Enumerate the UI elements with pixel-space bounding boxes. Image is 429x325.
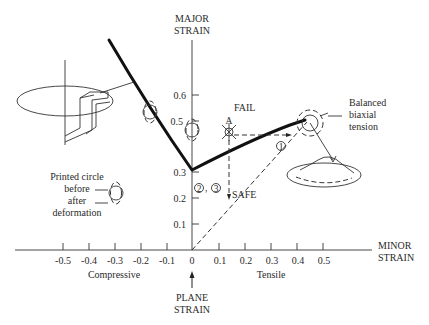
svg-text:0.5: 0.5 bbox=[318, 255, 331, 266]
balanced-label-line2: biaxial bbox=[349, 109, 376, 120]
svg-text:0.3: 0.3 bbox=[174, 167, 187, 178]
plane-strain-label-line1: PLANE bbox=[176, 292, 208, 303]
legend-line4: deformation bbox=[53, 207, 102, 218]
svg-text:-0.3: -0.3 bbox=[107, 255, 123, 266]
path-1-number: 1 bbox=[279, 142, 284, 152]
svg-text:0.5: 0.5 bbox=[171, 116, 184, 127]
svg-text:0.6: 0.6 bbox=[174, 90, 187, 101]
svg-text:0.1: 0.1 bbox=[214, 255, 227, 266]
svg-text:0.3: 0.3 bbox=[266, 255, 279, 266]
fail-label: FAIL bbox=[234, 102, 255, 113]
x-axis-title-line1: MINOR bbox=[378, 240, 412, 251]
y-ticks bbox=[192, 95, 199, 224]
balanced-label-line3: tension bbox=[349, 121, 378, 132]
svg-text:-0.5: -0.5 bbox=[55, 255, 71, 266]
x-axis-title-line2: STRAIN bbox=[378, 252, 414, 263]
legend-line2: before bbox=[64, 183, 90, 194]
path-2-number: 2 bbox=[197, 184, 202, 194]
y-axis-title-line1: MAJOR bbox=[175, 13, 209, 24]
svg-text:0.2: 0.2 bbox=[174, 193, 187, 204]
dome-sheet-illustration bbox=[287, 123, 361, 187]
compressive-label: Compressive bbox=[88, 269, 141, 280]
path-3-number: 3 bbox=[214, 184, 219, 194]
path-1-arrowhead-icon bbox=[286, 133, 292, 137]
svg-text:0.2: 0.2 bbox=[240, 255, 253, 266]
svg-text:-0.4: -0.4 bbox=[81, 255, 97, 266]
forming-limit-curve bbox=[109, 40, 305, 170]
tensile-label: Tensile bbox=[257, 269, 286, 280]
x-tick-labels: -0.5 -0.4 -0.3 -0.2 -0.1 0 0.1 0.2 0.3 0… bbox=[55, 255, 330, 266]
svg-text:0: 0 bbox=[190, 255, 195, 266]
path-separator: , bbox=[205, 183, 207, 193]
svg-text:-0.1: -0.1 bbox=[159, 255, 175, 266]
path-2-3-arrowhead-icon bbox=[227, 194, 231, 200]
forming-limit-diagram: MAJOR STRAIN MINOR STRAIN -0.5 -0.4 -0.3… bbox=[0, 0, 429, 325]
svg-text:0.1: 0.1 bbox=[174, 219, 187, 230]
safe-label: SAFE bbox=[232, 189, 256, 200]
y-axis-title-line2: STRAIN bbox=[174, 25, 210, 36]
plane-strain-label-line2: STRAIN bbox=[174, 304, 210, 315]
svg-text:0.4: 0.4 bbox=[292, 255, 305, 266]
balanced-biaxial-circle-icon bbox=[297, 110, 342, 136]
svg-text:-0.2: -0.2 bbox=[133, 255, 149, 266]
legend-line3: after bbox=[68, 195, 87, 206]
balanced-label-line1: Balanced bbox=[349, 97, 386, 108]
legend-line1: Printed circle bbox=[50, 171, 104, 182]
bend-part-illustration bbox=[17, 60, 134, 145]
point-a-label: A bbox=[226, 116, 233, 126]
legend-circle-icon bbox=[95, 182, 123, 204]
plane-strain-arrow-icon bbox=[190, 271, 195, 288]
